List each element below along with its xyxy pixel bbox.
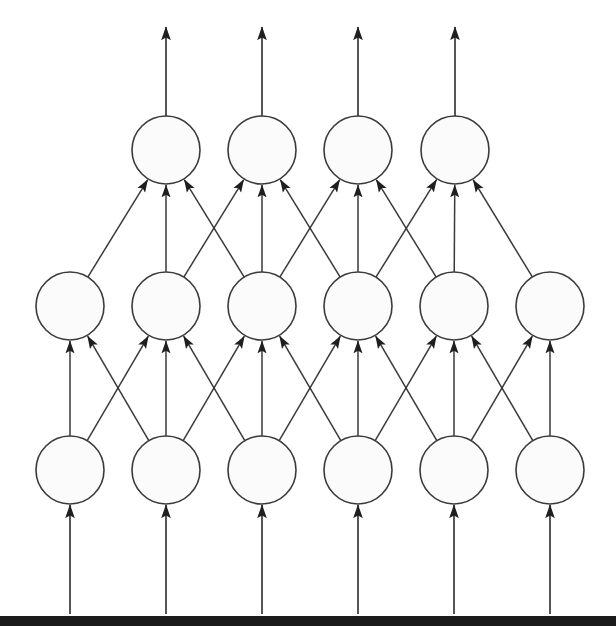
output-arrow-group [166, 27, 455, 116]
output-layer-node[interactable] [421, 116, 489, 184]
input-layer-node[interactable] [228, 436, 296, 504]
input-layer-node[interactable] [132, 436, 200, 504]
input-arrow-group [70, 505, 550, 614]
connection-edge [88, 180, 148, 277]
node-group-output-layer [132, 116, 489, 184]
hidden-layer-node[interactable] [132, 272, 200, 340]
edge-group-hidden-to-output [88, 180, 532, 277]
input-layer-node[interactable] [324, 436, 392, 504]
input-layer-node[interactable] [36, 436, 104, 504]
output-layer-node[interactable] [324, 116, 392, 184]
edge-group-input-to-hidden [70, 336, 550, 440]
connection-edge [454, 185, 455, 272]
hidden-layer-node[interactable] [516, 272, 584, 340]
footer-bar [0, 616, 616, 626]
hidden-layer-node[interactable] [228, 272, 296, 340]
output-layer-node[interactable] [132, 116, 200, 184]
hidden-layer-node[interactable] [324, 272, 392, 340]
hidden-layer-node[interactable] [36, 272, 104, 340]
connection-edge [473, 180, 532, 277]
figure-canvas [0, 0, 616, 626]
input-layer-node[interactable] [420, 436, 488, 504]
neural-network-diagram [0, 0, 616, 626]
hidden-layer-node[interactable] [420, 272, 488, 340]
node-group-input-layer [36, 436, 584, 504]
output-layer-node[interactable] [228, 116, 296, 184]
input-layer-node[interactable] [516, 436, 584, 504]
node-group-hidden-layer [36, 272, 584, 340]
